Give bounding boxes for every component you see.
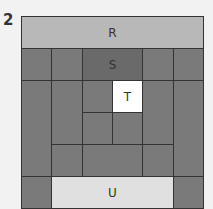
- block[interactable]: [21, 80, 52, 177]
- block[interactable]: [82, 112, 113, 145]
- block[interactable]: [21, 48, 52, 81]
- block[interactable]: [142, 144, 174, 177]
- puzzle-board: RSTU: [21, 16, 203, 208]
- block[interactable]: [173, 48, 204, 81]
- block[interactable]: [142, 80, 174, 145]
- block[interactable]: [112, 112, 143, 145]
- block[interactable]: [142, 48, 174, 81]
- block[interactable]: [51, 80, 83, 145]
- block-s[interactable]: S: [82, 48, 143, 81]
- block[interactable]: [82, 144, 143, 177]
- block[interactable]: [173, 80, 204, 177]
- block-t[interactable]: T: [112, 80, 143, 113]
- block-u[interactable]: U: [51, 176, 174, 209]
- figure-number: 2: [3, 11, 13, 29]
- block[interactable]: [173, 176, 204, 209]
- block[interactable]: [51, 48, 83, 81]
- block[interactable]: [82, 80, 113, 113]
- block-r[interactable]: R: [21, 16, 204, 49]
- block[interactable]: [21, 176, 52, 209]
- block[interactable]: [51, 144, 83, 177]
